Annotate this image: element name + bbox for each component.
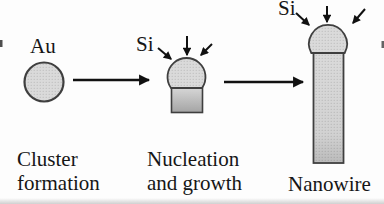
si-material-label-middle: Si — [136, 32, 154, 56]
scan-artifact-bottom-smear — [0, 198, 384, 204]
si-material-label-right: Si — [278, 0, 296, 20]
nucleation-stub-shape — [172, 87, 203, 113]
stage2-caption-line2: and growth — [147, 171, 243, 195]
gold-cluster-shape — [25, 63, 64, 102]
si-flux-arrow-left-middle — [158, 48, 171, 59]
stage2-caption-line1: Nucleation — [147, 147, 240, 171]
si-flux-arrow-right-right — [353, 9, 365, 23]
nanowire-growth-figure: Au Si Si Cluster formation Nucleation an… — [0, 0, 384, 204]
si-flux-arrow-right-middle — [201, 44, 212, 55]
stage1-caption-line2: formation — [17, 171, 100, 195]
scan-artifact-left-edge — [0, 40, 3, 47]
si-flux-arrow-left-right — [296, 13, 309, 25]
nanowire-droplet-shape — [309, 25, 347, 53]
nucleation-droplet-shape — [168, 58, 206, 88]
diagram-svg: Au Si Si Cluster formation Nucleation an… — [0, 0, 384, 204]
au-material-label: Au — [30, 34, 56, 58]
stage3-caption: Nanowire — [288, 172, 371, 196]
nanowire-body-shading — [315, 54, 343, 163]
stage1-caption-line1: Cluster — [17, 147, 78, 171]
